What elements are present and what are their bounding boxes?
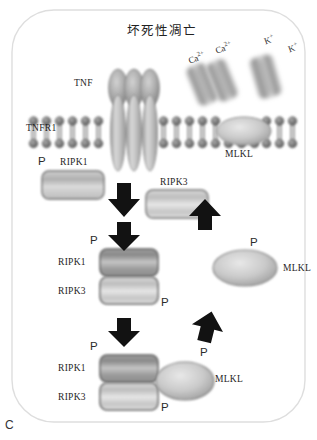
tnfr1-subunit-2 xyxy=(127,95,142,171)
figure-panel: 坏死性凋亡 TNF TNFR1 Ca2+ Ca2+ K+ K+ MLKL P R… xyxy=(0,0,317,440)
figure-title: 坏死性凋亡 xyxy=(127,25,197,38)
mlkl-ellipse-step2 xyxy=(213,250,277,286)
phospho-mark-mlkl-step2: P xyxy=(250,237,258,249)
tnfr1-receptor xyxy=(111,95,158,171)
phospho-mark-ripk1-step3: P xyxy=(90,341,98,353)
tnfr1-subunit-1 xyxy=(111,95,126,171)
ripk1-box-step2 xyxy=(100,249,158,276)
ripk3-box-step2 xyxy=(100,277,158,304)
ripk3-label-step1: RIPK3 xyxy=(160,178,188,188)
ripk3-label-step2: RIPK3 xyxy=(58,287,86,297)
pathway-diagram xyxy=(0,0,317,440)
panel-letter: C xyxy=(5,419,14,431)
tnfr1-label: TNFR1 xyxy=(26,124,57,134)
phospho-mark-ripk1-step1: P xyxy=(38,156,46,168)
ripk1-label-step1: RIPK1 xyxy=(60,158,88,168)
phospho-mark-mlkl-step3: P xyxy=(200,347,208,359)
ripk3-label-step3: RIPK3 xyxy=(58,393,86,403)
tnfr1-subunit-3 xyxy=(143,95,158,171)
phospho-mark-ripk3-step3: P xyxy=(161,402,169,414)
mlkl-membrane-label: MLKL xyxy=(225,150,253,160)
mlkl-membrane-pore xyxy=(217,117,271,145)
ripk1-label-step2: RIPK1 xyxy=(58,258,86,268)
ripk1-label-step3: RIPK1 xyxy=(58,364,86,374)
ripk1-box-step3 xyxy=(100,355,158,382)
mlkl-label-step3: MLKL xyxy=(215,375,243,385)
phospho-mark-ripk1-step2: P xyxy=(90,235,98,247)
ripk1-box-step1 xyxy=(42,171,104,199)
ripk3-box-step3 xyxy=(100,383,158,410)
tnf-label: TNF xyxy=(74,79,93,89)
phospho-mark-ripk3-step2: P xyxy=(161,297,169,309)
mlkl-ellipse-step3 xyxy=(156,362,214,400)
mlkl-label-step2: MLKL xyxy=(283,264,311,274)
